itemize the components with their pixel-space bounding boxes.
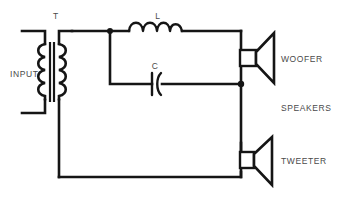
capacitor-C <box>152 73 161 95</box>
transformer-secondary-coil <box>59 31 72 177</box>
bottom-rail-wire <box>59 172 241 177</box>
label-inductor: L <box>155 11 160 21</box>
label-tweeter: TWEETER <box>281 156 327 166</box>
schematic-canvas: T INPUT L C WOOFER SPEAKERS TWEETER <box>0 0 338 197</box>
inductor-L <box>129 23 182 31</box>
label-transformer: T <box>53 11 59 21</box>
transformer-primary-coil <box>38 44 45 100</box>
label-capacitor: C <box>152 61 159 71</box>
label-speakers: SPEAKERS <box>281 103 332 113</box>
circuit-diagram: T INPUT L C WOOFER SPEAKERS TWEETER <box>0 0 338 197</box>
transformer-core <box>50 42 54 102</box>
label-woofer: WOOFER <box>281 54 323 64</box>
input-terminal-top <box>22 31 45 44</box>
woofer-speaker[interactable] <box>240 31 274 84</box>
capacitor-branch-wire <box>110 31 241 84</box>
tweeter-speaker[interactable] <box>240 137 272 185</box>
input-terminal-bottom <box>22 100 45 113</box>
label-input: INPUT <box>10 69 39 79</box>
